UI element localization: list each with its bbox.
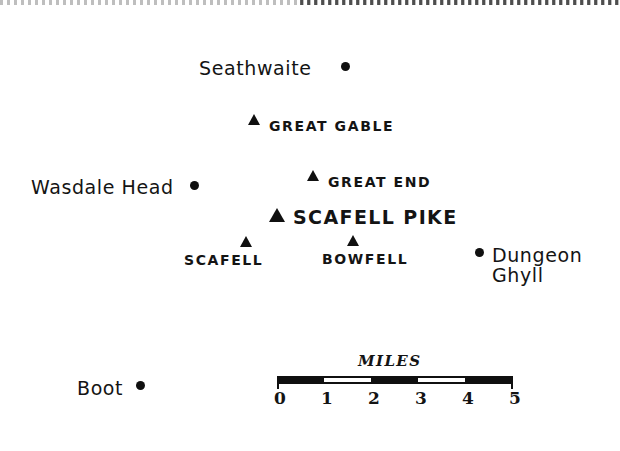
peak-label-scafell: SCAFELL: [184, 252, 263, 268]
peak-label-great-gable: GREAT GABLE: [269, 118, 394, 134]
scale-bar-track: [277, 376, 513, 384]
settlement-label-dungeon-ghyll: Dungeon Ghyll: [492, 245, 592, 285]
peak-label-bowfell: BOWFELL: [322, 251, 408, 267]
peak-triangle-great-gable: [248, 114, 260, 125]
peak-label-great-end: GREAT END: [328, 174, 431, 190]
scale-bar-segment-3-4: [418, 378, 465, 382]
scale-tick-label-5: 5: [509, 388, 521, 408]
peak-triangle-bowfell: [347, 235, 359, 246]
settlement-dot-dungeon-ghyll: [475, 248, 484, 257]
settlement-dot-seathwaite: [341, 62, 350, 71]
settlement-label-boot: Boot: [77, 377, 123, 399]
settlement-label-wasdale-head: Wasdale Head: [31, 176, 174, 198]
peak-triangle-scafell-pike: [269, 208, 285, 222]
settlement-label-seathwaite: Seathwaite: [199, 57, 312, 79]
scale-tick-label-4: 4: [462, 388, 474, 408]
scale-tick-label-2: 2: [368, 388, 380, 408]
scale-tick-label-0: 0: [274, 388, 286, 408]
peak-triangle-great-end: [307, 170, 319, 181]
scale-bar-group: MILES 0 1 2 3 4 5: [270, 352, 525, 412]
scale-tick-label-3: 3: [415, 388, 427, 408]
scale-tick-label-1: 1: [321, 388, 333, 408]
sketch-map: Seathwaite Wasdale Head Dungeon Ghyll Bo…: [0, 0, 620, 451]
scale-bar-title: MILES: [358, 352, 421, 370]
settlement-dot-wasdale-head: [190, 181, 199, 190]
peak-triangle-scafell: [240, 236, 252, 247]
scale-bar-segment-1-2: [324, 378, 371, 382]
settlement-dot-boot: [136, 381, 145, 390]
scan-artifact-edge-right: [300, 0, 620, 5]
peak-label-scafell-pike: SCAFELL PIKE: [293, 206, 458, 228]
